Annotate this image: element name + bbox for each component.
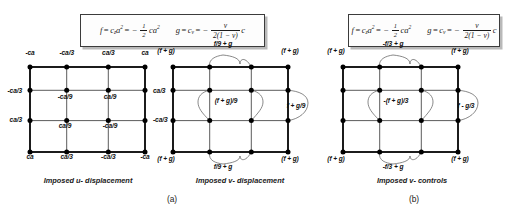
u-displacement-node-label-2: ca/3 [102, 50, 114, 57]
formula-g-num: v [473, 22, 480, 30]
formula-f-half: 1 2 [392, 23, 399, 38]
v-controls-node-label-5: (f + g) [327, 156, 344, 163]
formula-g-tail: c [493, 26, 497, 35]
brace-curves-v-controls [368, 55, 478, 164]
panel-letter-b: (b) [409, 194, 419, 204]
figure-canvas: f = cza2 =− 1 2 ca2 g = cv =− v 2(1 − v)… [0, 0, 507, 211]
v-controls-node-label-7: (f + g) [451, 156, 468, 163]
u-displacement-node-label-7: ca/3 [153, 88, 165, 95]
u-displacement-node-label-4: -ca/3 [7, 88, 22, 95]
u-displacement-node-label-5: -ca/9 [58, 94, 73, 101]
v-displacement-node-label-1: f/9 + g [214, 41, 233, 48]
u-displacement-node-label-14: -ca/3 [101, 154, 116, 161]
formula-box-panel-a: f = cza2 =− 1 2 ca2 g = cv =− v 2(1 − v)… [80, 14, 265, 47]
u-displacement-node-label-13: ca/3 [60, 154, 72, 161]
v-controls-node-label-4: f - g/3 [458, 103, 475, 110]
formula-g-fraction: v 2(1 − v) [211, 22, 240, 39]
formula-f-panel-b: f = cza2 =− 1 2 ca2 [352, 23, 412, 38]
formula-g-tail: c [241, 26, 245, 35]
u-displacement-node-label-3: ca [141, 50, 148, 57]
u-displacement-node-label-0: -ca [25, 50, 34, 57]
u-displacement-node-label-9: ca/9 [59, 123, 71, 130]
caption-v-controls: Imposed v- controls [377, 176, 447, 185]
caption-v-displacement: Imposed v- displacement [196, 176, 284, 185]
diagram-v-displacement: (f + g)f/9 + g(f + g)(f + g)/9f + g/9(f … [168, 62, 313, 157]
formula-f-panel-a: f = cza2 =− 1 2 ca2 [100, 23, 160, 38]
formula-f-c-sub: z [114, 30, 116, 36]
grid-mesh-v-displacement [168, 62, 313, 157]
formula-f-half-den: 2 [392, 30, 399, 38]
grid-mesh-u [25, 62, 150, 157]
u-displacement-node-label-11: -ca/3 [153, 117, 168, 124]
u-displacement-node-label-15: -ca [140, 154, 149, 161]
formula-f-a-sup: 2 [372, 25, 375, 31]
u-displacement-node-label-12: ca [26, 154, 33, 161]
formula-f-c-sub: z [365, 30, 367, 36]
formula-f-half-den: 2 [140, 30, 147, 38]
formula-f-tail-sup: 2 [157, 25, 160, 31]
v-displacement-node-label-4: f + g/9 [287, 103, 306, 110]
formula-f-half-num: 1 [392, 23, 399, 30]
v-displacement-node-label-3: (f + g)/9 [215, 98, 238, 105]
u-displacement-node-label-8: ca/3 [10, 117, 22, 124]
v-displacement-node-label-0: (f + g) [157, 48, 174, 55]
panel-letter-a: (a) [167, 194, 177, 204]
v-controls-node-label-3: -(f + g)/3 [384, 98, 409, 105]
formula-f-tail: ca [400, 26, 408, 35]
formula-g-panel-b: g = cv =− v 2(1 − v) c [427, 22, 496, 39]
formula-box-panel-b: f = cza2 =− 1 2 ca2 g = cv =− v 2(1 − v)… [348, 14, 500, 47]
formula-g-num: v [222, 22, 229, 30]
formula-f-half: 1 2 [140, 23, 147, 38]
formula-g-c-sub: v [192, 30, 194, 36]
formula-g-den: 2(1 − v) [211, 30, 240, 39]
u-displacement-node-label-6: ca/9 [104, 94, 116, 101]
v-displacement-node-label-5: (f + g) [157, 156, 174, 163]
caption-u-displacement: Imposed u- displacement [44, 176, 133, 185]
brace-curves-v-displacement [198, 55, 308, 164]
grid-mesh-v-controls [338, 62, 483, 157]
formula-g-fraction: v 2(1 − v) [463, 22, 492, 39]
formula-f-tail-sup: 2 [408, 25, 411, 31]
v-displacement-node-label-6: f/9 + g [214, 164, 233, 171]
v-displacement-node-label-2: (f + g) [281, 48, 298, 55]
diagram-v-controls: (f + g)-f/3 + g(f + g)-(f + g)/3f - g/3(… [338, 62, 483, 157]
formula-g-panel-a: g = cv =− v 2(1 − v) c [176, 22, 245, 39]
formula-f-tail: ca [149, 26, 157, 35]
formula-f-a-sup: 2 [120, 25, 123, 31]
v-controls-node-label-1: -f/3 + g [383, 41, 404, 48]
v-controls-node-label-2: (f + g) [451, 48, 468, 55]
diagram-u-displacement: -ca-ca/3ca/3ca-ca/3-ca/9ca/9ca/3ca/3ca/9… [25, 62, 150, 157]
formula-g-c-sub: v [443, 30, 445, 36]
u-displacement-node-label-1: -ca/3 [59, 50, 74, 57]
formula-f-half-num: 1 [140, 23, 147, 30]
u-displacement-node-label-10: -ca/9 [103, 123, 118, 130]
v-displacement-node-label-7: (f + g) [281, 156, 298, 163]
v-controls-node-label-6: -f/3 + g [383, 164, 404, 171]
formula-g-den: 2(1 − v) [463, 30, 492, 39]
v-controls-node-label-0: (f + g) [327, 48, 344, 55]
